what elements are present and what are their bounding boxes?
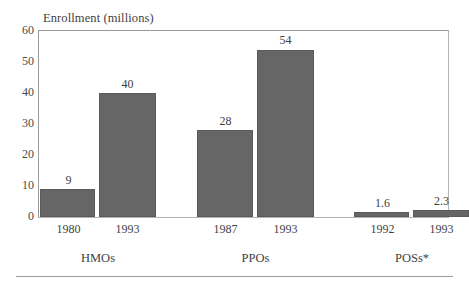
year-label-hmos-1980: 1980 xyxy=(39,223,98,235)
bar-poss-1992[interactable] xyxy=(354,212,409,217)
y-tick-label-40: 40 xyxy=(0,86,34,98)
bar-value-hmos-1993: 40 xyxy=(98,78,157,90)
bar-ppos-1993[interactable] xyxy=(257,50,314,217)
bar-value-poss-1993: 2.3 xyxy=(412,195,469,207)
y-tick-label-20: 20 xyxy=(0,148,34,160)
y-tick-label-10: 10 xyxy=(0,179,34,191)
y-tick-label-30: 30 xyxy=(0,117,34,129)
year-label-poss-1992: 1992 xyxy=(353,223,412,235)
bar-value-ppos-1987: 28 xyxy=(196,115,255,127)
bar-hmos-1980[interactable] xyxy=(40,189,95,217)
y-tick-label-50: 50 xyxy=(0,55,34,67)
group-label-poss: POSs* xyxy=(353,252,469,265)
year-label-hmos-1993: 1993 xyxy=(98,223,157,235)
group-label-hmos: HMOs xyxy=(39,252,157,265)
year-label-poss-1993: 1993 xyxy=(412,223,469,235)
bar-poss-1993[interactable] xyxy=(413,210,469,217)
year-label-ppos-1987: 1987 xyxy=(196,223,255,235)
bar-value-poss-1992: 1.6 xyxy=(353,197,412,209)
bar-hmos-1993[interactable] xyxy=(99,93,156,217)
chart-title: Enrollment (millions) xyxy=(43,11,154,26)
group-label-ppos: PPOs xyxy=(196,252,315,265)
y-tick-label-0: 0 xyxy=(0,210,34,222)
enrollment-bar-chart-figure: Enrollment (millions) 60 50 40 30 20 10 … xyxy=(0,0,469,287)
bottom-divider-rule xyxy=(16,276,453,277)
y-tick-label-60: 60 xyxy=(0,24,34,36)
bar-ppos-1987[interactable] xyxy=(197,130,253,217)
bar-value-ppos-1993: 54 xyxy=(256,34,315,46)
year-label-ppos-1993: 1993 xyxy=(256,223,315,235)
y-axis: 60 50 40 30 20 10 0 xyxy=(0,30,34,218)
bar-value-hmos-1980: 9 xyxy=(39,174,98,186)
